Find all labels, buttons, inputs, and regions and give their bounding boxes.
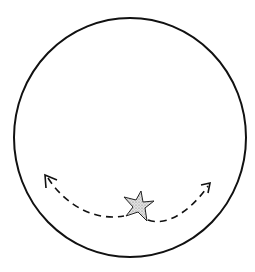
circle-boundary bbox=[14, 18, 246, 257]
star-icon bbox=[124, 191, 154, 221]
dashed-path-right bbox=[148, 186, 208, 222]
dashed-path-left bbox=[48, 178, 124, 217]
arrow-right-icon bbox=[201, 183, 210, 193]
diagram-canvas bbox=[0, 0, 255, 272]
diagram-svg bbox=[0, 0, 255, 272]
